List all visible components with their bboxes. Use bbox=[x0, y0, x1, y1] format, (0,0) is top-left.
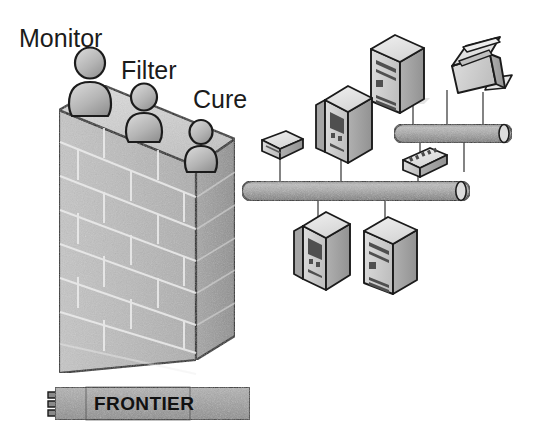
guard-label-cure: Cure bbox=[193, 85, 247, 113]
workstation-middle bbox=[316, 86, 372, 166]
workstation-lower-left bbox=[294, 212, 350, 290]
diagram-canvas: Monitor Filter Cure bbox=[0, 0, 537, 448]
printer bbox=[452, 37, 512, 93]
lower-network-bus bbox=[242, 181, 470, 201]
person-figure-monitor bbox=[69, 48, 111, 117]
modem-left bbox=[262, 131, 303, 159]
diagram-scene: Monitor Filter Cure bbox=[0, 0, 537, 448]
hub-upper bbox=[403, 148, 447, 177]
server-tower-lower bbox=[364, 217, 417, 294]
upper-network-bus bbox=[394, 124, 512, 143]
guard-label-filter: Filter bbox=[121, 56, 177, 84]
frontier-banner-label: FRONTIER bbox=[94, 393, 194, 414]
server-tower-top bbox=[371, 34, 430, 113]
frontier-banner: FRONTIER bbox=[48, 387, 250, 420]
